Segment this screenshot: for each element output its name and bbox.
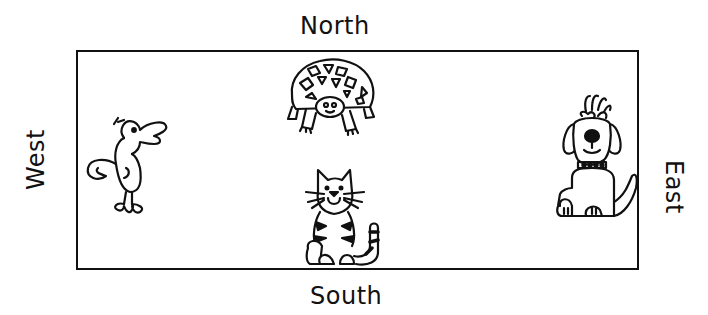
turtle-icon bbox=[284, 55, 380, 145]
west-label: West bbox=[22, 129, 50, 190]
cat-icon bbox=[304, 166, 384, 270]
east-label: East bbox=[660, 160, 688, 214]
north-label: North bbox=[300, 12, 370, 40]
bird-icon bbox=[84, 112, 170, 220]
dog-icon bbox=[548, 92, 640, 220]
south-label: South bbox=[310, 282, 382, 310]
